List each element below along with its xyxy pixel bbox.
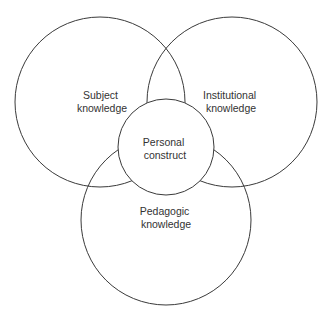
institutional-knowledge-label: Institutional knowledge — [203, 89, 259, 114]
pedagogic-knowledge-label: Pedagogic knowledge — [140, 205, 193, 230]
personal-construct-label: Personal construct — [143, 136, 187, 161]
personal-construct-label-line-1: Personal — [143, 136, 184, 148]
venn-diagram: Subject knowledge Institutional knowledg… — [0, 0, 331, 318]
institutional-knowledge-label-line-2: knowledge — [206, 102, 256, 114]
pedagogic-knowledge-label-line-2: knowledge — [141, 218, 191, 230]
subject-knowledge-label-line-1: Subject — [83, 89, 118, 101]
personal-construct-label-line-2: construct — [144, 149, 187, 161]
pedagogic-knowledge-label-line-1: Pedagogic — [140, 205, 190, 217]
subject-knowledge-label-line-2: knowledge — [77, 102, 127, 114]
subject-knowledge-label: Subject knowledge — [77, 89, 127, 114]
institutional-knowledge-label-line-1: Institutional — [203, 89, 256, 101]
